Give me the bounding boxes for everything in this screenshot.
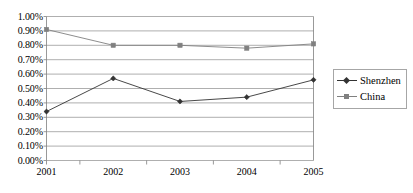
legend-marker-diamond-icon [337, 76, 357, 86]
data-point-marker [44, 27, 48, 31]
data-point-marker [44, 109, 49, 114]
legend-label: China [360, 91, 385, 103]
data-point-marker [311, 42, 315, 46]
axis-ticks [44, 17, 281, 165]
line-chart-figure: 0.00%0.10%0.20%0.30%0.40%0.50%0.60%0.70%… [0, 0, 413, 193]
data-series [44, 27, 316, 114]
series-line [47, 78, 314, 111]
data-point-marker [178, 43, 182, 47]
series-shenzhen [44, 76, 316, 114]
legend-marker-square-icon [337, 92, 357, 102]
legend-item-shenzhen[interactable]: Shenzhen [337, 73, 401, 89]
data-point-marker [311, 77, 316, 82]
legend-label: Shenzhen [360, 75, 401, 87]
data-point-marker [245, 46, 249, 50]
data-point-marker [244, 95, 249, 100]
gridlines [47, 17, 314, 161]
legend: ShenzhenChina [333, 69, 407, 109]
data-point-marker [111, 43, 115, 47]
data-point-marker [111, 76, 116, 81]
legend-item-china[interactable]: China [337, 89, 401, 105]
